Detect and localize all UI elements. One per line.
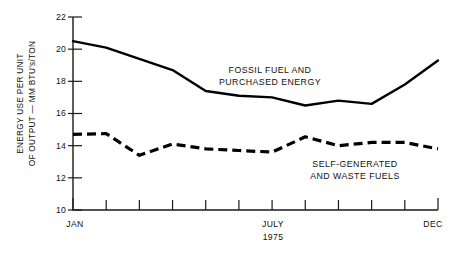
series-lines [73, 41, 438, 155]
plot-canvas [0, 0, 462, 261]
chart-figure: ENERGY USE PER UNIT OF OUTPUT — MM BTU's… [0, 0, 462, 261]
axis-ticks [68, 17, 438, 210]
axis-lines [73, 17, 438, 210]
